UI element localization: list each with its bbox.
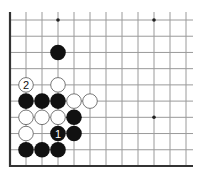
white-stone	[19, 110, 34, 125]
white-stone	[51, 78, 66, 93]
white-stone	[51, 110, 66, 125]
black-stone-move-1: 1	[50, 126, 66, 142]
move-number-label: 1	[55, 128, 61, 140]
black-stone	[50, 93, 66, 109]
white-stone	[35, 110, 50, 125]
star-point-icon	[152, 116, 156, 120]
black-stone	[66, 126, 82, 142]
black-stone	[34, 93, 50, 109]
black-stone	[18, 142, 34, 158]
grid-lines	[9, 12, 193, 167]
white-stone	[67, 94, 82, 109]
star-point-icon	[152, 18, 156, 22]
black-stone	[50, 45, 66, 61]
star-point-icon	[56, 18, 60, 22]
white-stone-move-2: 2	[19, 78, 34, 93]
black-stone	[66, 110, 82, 126]
move-number-label: 2	[23, 79, 29, 91]
go-board: 21	[0, 0, 202, 178]
white-stone	[19, 126, 34, 141]
black-stone	[50, 142, 66, 158]
black-stone	[18, 93, 34, 109]
black-stone	[34, 142, 50, 158]
white-stone	[83, 94, 98, 109]
